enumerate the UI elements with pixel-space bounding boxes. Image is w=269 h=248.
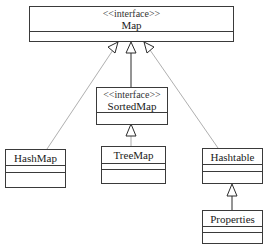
uml-diagram: <<interface>> Map <<interface>> SortedMa… [0, 0, 269, 248]
class-hashmap-header: HashMap [6, 150, 65, 166]
class-treemap-header: TreeMap [102, 147, 165, 164]
class-sortedmap: <<interface>> SortedMap [96, 87, 168, 125]
class-hashtable-operations [203, 172, 262, 183]
arrowhead-treemap-sortedmap [126, 124, 136, 136]
arrowhead-properties-hashtable [227, 184, 237, 196]
arrowhead-hashtable-map [144, 42, 154, 53]
class-sortedmap-body [97, 113, 167, 124]
class-sortedmap-name: SortedMap [108, 100, 157, 112]
class-hashmap-attributes [6, 166, 65, 173]
class-sortedmap-header: <<interface>> SortedMap [97, 88, 167, 113]
class-treemap-operations [102, 170, 165, 183]
class-properties: Properties [202, 210, 263, 244]
class-map-name: Map [121, 19, 141, 31]
class-sortedmap-stereotype: <<interface>> [97, 89, 167, 100]
arrowhead-sortedmap-map [126, 42, 136, 53]
class-hashmap-operations [6, 173, 65, 187]
class-properties-name: Properties [210, 213, 255, 225]
class-treemap-name: TreeMap [114, 149, 154, 161]
class-hashtable: Hashtable [202, 148, 263, 184]
class-map: <<interface>> Map [29, 6, 234, 42]
class-map-stereotype: <<interface>> [30, 8, 233, 19]
class-hashmap: HashMap [5, 149, 66, 188]
class-map-body [30, 32, 233, 41]
class-hashtable-attributes [203, 165, 262, 172]
class-hashtable-header: Hashtable [203, 149, 262, 165]
class-properties-header: Properties [203, 211, 262, 227]
class-hashmap-name: HashMap [14, 152, 57, 164]
class-treemap: TreeMap [101, 146, 166, 184]
class-properties-operations [203, 233, 262, 243]
arrowhead-hashmap-map [108, 42, 118, 53]
class-map-header: <<interface>> Map [30, 7, 233, 32]
class-hashtable-name: Hashtable [211, 151, 255, 163]
